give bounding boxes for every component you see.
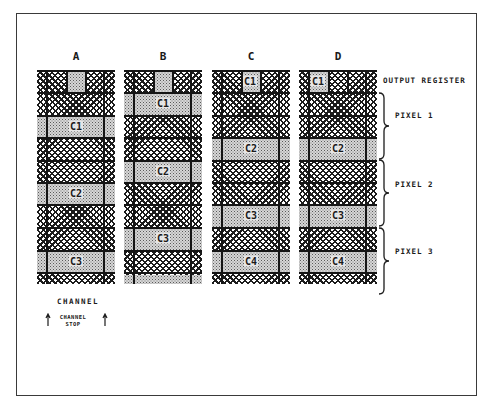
channel-stop-line	[103, 70, 105, 284]
register-divider	[347, 70, 349, 92]
channel-stop-line	[365, 70, 367, 284]
output-register-label: OUTPUT REGISTER	[383, 76, 466, 85]
column-b: C1 C2 C3	[124, 70, 202, 284]
channel-stop-line	[308, 70, 310, 284]
column-label-d: D	[318, 50, 358, 63]
charge-tag: C4	[244, 256, 258, 267]
charge-tag: C4	[331, 256, 345, 267]
charge-tag: C2	[69, 188, 83, 199]
channel-legend-label: CHANNEL	[57, 297, 99, 306]
charge-tag: C1	[156, 98, 170, 109]
register-divider	[85, 70, 87, 92]
pixel-3-brace-icon	[378, 227, 392, 295]
column-a: C1 C2 C3	[37, 70, 115, 284]
charge-tag: C1	[311, 76, 325, 87]
register-divider	[328, 70, 330, 92]
pixel-1-label: PIXEL 1	[395, 111, 434, 120]
register-divider	[153, 70, 155, 92]
channel-stop-line	[46, 70, 48, 284]
pixel-3-label: PIXEL 3	[395, 247, 434, 256]
column-c: C1 C2 C3 C4	[212, 70, 290, 284]
register-divider	[260, 70, 262, 92]
column-label-c: C	[231, 50, 271, 63]
register-divider	[172, 70, 174, 92]
channel-stop-line	[133, 70, 135, 284]
charge-tag: C2	[244, 143, 258, 154]
channel-stop-line	[278, 70, 280, 284]
channel-stop-line	[190, 70, 192, 284]
charge-tag: C2	[331, 143, 345, 154]
column-label-b: B	[143, 50, 183, 63]
output-register-cell	[153, 70, 172, 92]
output-register-cell	[66, 70, 85, 92]
charge-tag: C2	[156, 166, 170, 177]
column-label-a: A	[56, 50, 96, 63]
column-d: C1 C2 C3 C4	[299, 70, 377, 284]
channel-stop-line2: STOP	[55, 321, 91, 328]
channel-stop-line	[221, 70, 223, 284]
register-divider	[66, 70, 68, 92]
charge-tag: C1	[243, 76, 257, 87]
charge-tag: C1	[69, 121, 83, 132]
pixel-2-brace-icon	[378, 159, 392, 227]
charge-tag: C3	[244, 210, 258, 221]
pixel-2-label: PIXEL 2	[395, 180, 434, 189]
channel-stop-line1: CHANNEL	[55, 314, 91, 321]
charge-tag: C3	[69, 256, 83, 267]
charge-tag: C3	[156, 233, 170, 244]
channel-stop-legend-label: CHANNEL STOP	[55, 314, 91, 327]
channel-stop-arrow-left-icon	[45, 313, 51, 327]
channel-stop-arrow-right-icon	[102, 313, 108, 327]
pixel-1-brace-icon	[378, 92, 392, 160]
charge-tag: C3	[331, 210, 345, 221]
